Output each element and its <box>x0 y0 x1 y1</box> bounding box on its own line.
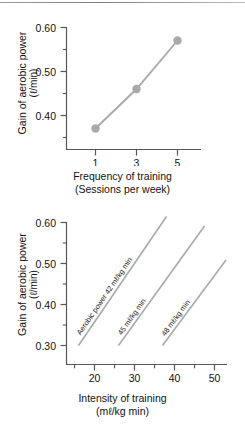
x-tick-label: 3 <box>134 157 140 166</box>
x-tick-label: 20 <box>89 372 101 384</box>
x-axis-label-line1: Frequency of training <box>0 170 245 183</box>
x-tick-label: 1 <box>93 157 99 166</box>
x-tick-label: 50 <box>209 372 221 384</box>
data-point-marker <box>91 124 99 132</box>
x-axis-label-line2: (Sessions per week) <box>0 183 245 196</box>
top-divider-rule <box>0 2 245 3</box>
data-point-marker <box>173 36 181 44</box>
y-axis-label-line1: Gain of aerobic power <box>16 207 28 362</box>
x-axis-label-intensity: Intensity of training (mℓ/kg min) <box>0 392 245 417</box>
data-point-marker <box>132 85 140 93</box>
y-major-ticks <box>61 28 67 116</box>
series-label-3: 48 mℓ/kg min <box>159 298 192 338</box>
x-tick-label: 5 <box>175 157 181 166</box>
x-tick-label: 40 <box>169 372 181 384</box>
x-major-ticks <box>96 150 178 156</box>
x-axis-label-line1: Intensity of training <box>0 392 245 405</box>
x-axis-label-frequency: Frequency of training (Sessions per week… <box>0 170 245 195</box>
x-axis-label-line2: (mℓ/kg min) <box>0 405 245 418</box>
x-tick-label: 30 <box>129 372 141 384</box>
data-line-series-2 <box>119 226 205 346</box>
y-axis-label-line2: (ℓ/min) <box>28 8 40 158</box>
chart-frequency-of-training: Gain of aerobic power (ℓ/min) 0.60 0.50 … <box>0 8 245 204</box>
data-lines <box>79 217 227 346</box>
data-line-series-1 <box>96 41 178 129</box>
y-axis-label-frequency: Gain of aerobic power (ℓ/min) <box>0 8 36 204</box>
y-axis-label-intensity: Gain of aerobic power (ℓ/min) <box>0 204 36 427</box>
series-label-2: 45 mℓ/kg min <box>116 297 148 337</box>
y-axis-label-line2: (ℓ/min) <box>28 207 40 362</box>
chart-intensity-of-training: Gain of aerobic power (ℓ/min) 0.60 0.50 … <box>0 204 245 427</box>
data-line-series-3 <box>163 260 227 346</box>
axis-lines <box>67 222 228 365</box>
y-axis-label-line1: Gain of aerobic power <box>16 8 28 158</box>
